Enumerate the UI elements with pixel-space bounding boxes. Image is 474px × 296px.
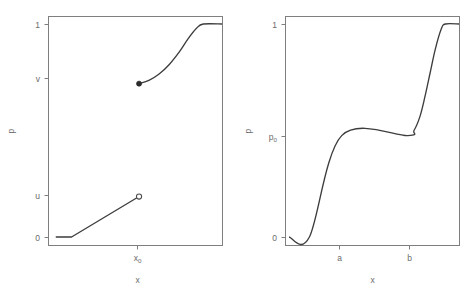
left-ytick-label-1: 1 [35,20,40,30]
figure-canvas: 0 u v 1 x0 x p [0,0,474,296]
two-panel-plot: 0 u v 1 x0 x p [0,0,474,296]
left-ytick-label-u: u [35,191,40,201]
left-y-ticks [45,25,49,238]
right-panel: 0 p0 1 a b x p [243,17,460,286]
left-filled-dot-marker [137,81,142,86]
right-yaxis-title: p [243,128,253,133]
left-lower-branch [56,197,139,237]
left-plot-frame [49,17,223,246]
left-yaxis-title: p [6,128,16,133]
right-ytick-sub: 0 [274,136,278,143]
right-ytick-label-1: 1 [272,20,277,30]
right-cdf-curve [289,24,459,245]
left-xtick-sub: 0 [138,257,142,264]
left-open-circle-marker [136,194,141,199]
left-panel: 0 u v 1 x0 x p [6,17,223,286]
left-xaxis-title: x [135,275,140,285]
left-ytick-label-v: v [36,74,41,84]
right-plot-frame [286,17,460,246]
right-xaxis-title: x [370,275,375,285]
right-y-ticks [282,25,286,238]
left-xtick-label-x0: x0 [134,253,142,264]
right-xtick-label-a: a [337,253,342,263]
left-ytick-label-0: 0 [35,233,40,243]
right-xtick-label-b: b [407,253,412,263]
left-upper-branch [139,24,222,84]
right-ytick-label-p0: p0 [269,132,278,143]
right-ytick-label-0: 0 [272,233,277,243]
